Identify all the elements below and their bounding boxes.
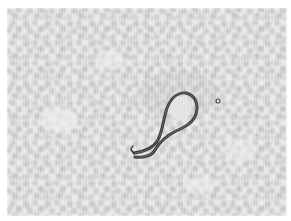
blood-smear-field [7, 8, 287, 216]
micrograph [0, 0, 291, 221]
